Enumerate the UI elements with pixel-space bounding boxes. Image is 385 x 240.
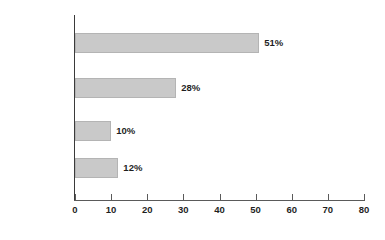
x-tick-mark [364,194,365,200]
x-tick-mark [292,194,293,200]
x-tick-mark [256,194,257,200]
bar-chart: 매우 그렇다 51% 어느 정도 그렇다 28% 그렇지 않다 10% 확실하지… [0,0,385,240]
x-tick-label: 10 [96,204,126,215]
x-tick-label: 0 [60,204,90,215]
x-tick-mark [220,194,221,200]
x-tick-label: 60 [277,204,307,215]
bar [75,78,176,98]
bar [75,33,259,53]
bar-value-label: 10% [116,121,135,141]
bar-value-label: 51% [264,33,283,53]
x-tick-label: 50 [241,204,271,215]
x-tick-mark [111,194,112,200]
x-axis-line [74,200,365,201]
x-tick-mark [328,194,329,200]
x-tick-label: 70 [313,204,343,215]
x-tick-label: 80 [349,204,379,215]
bar [75,158,118,178]
bar-value-label: 12% [123,158,142,178]
bar-value-label: 28% [181,78,200,98]
x-tick-mark [75,194,76,200]
x-tick-mark [147,194,148,200]
x-tick-label: 30 [168,204,198,215]
x-tick-label: 20 [132,204,162,215]
x-tick-mark [183,194,184,200]
x-tick-label: 40 [205,204,235,215]
bar [75,121,111,141]
